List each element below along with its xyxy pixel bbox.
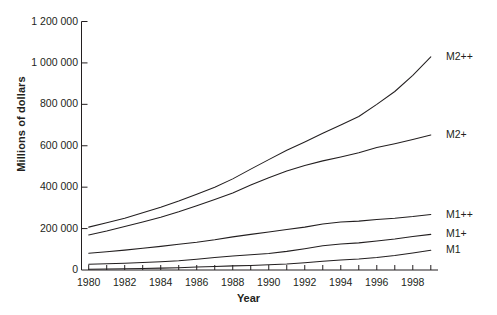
- plot-area: [0, 0, 497, 315]
- series-line-m1p: [89, 234, 431, 264]
- series-line-m2pp: [89, 57, 431, 227]
- chart-container: Millions of dollars Year 1 200 0001 000 …: [0, 0, 497, 315]
- series-line-m1: [89, 250, 431, 269]
- series-line-m2p: [89, 135, 431, 235]
- series-line-m1pp: [89, 215, 431, 254]
